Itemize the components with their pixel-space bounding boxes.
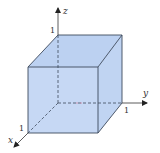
x-axis-label: x (8, 135, 13, 145)
z-axis-tick-1: 1 (50, 26, 55, 35)
cube (28, 35, 122, 133)
x-axis-tick-1: 1 (19, 124, 24, 133)
cube-front-face (28, 67, 98, 133)
z-axis-label: z (62, 6, 68, 16)
y-axis-tick-1: 1 (124, 106, 129, 115)
cube-svg: z 1 y 1 x 1 (0, 0, 160, 153)
unit-cube-diagram: z 1 y 1 x 1 (0, 0, 160, 153)
y-axis-label: y (142, 88, 149, 98)
x-axis (14, 133, 28, 147)
